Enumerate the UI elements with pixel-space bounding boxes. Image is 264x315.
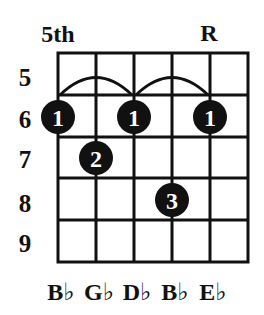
finger-number: 1 — [128, 105, 140, 131]
string-label: G♭ — [84, 279, 114, 305]
finger-number: 1 — [204, 105, 216, 131]
fret-number: 9 — [19, 230, 32, 257]
string-label: B♭ — [161, 279, 188, 305]
fret-number: 6 — [19, 106, 32, 133]
finger-number: 1 — [52, 105, 64, 131]
finger-dot: 1 — [117, 100, 151, 134]
string-label: E♭ — [199, 279, 226, 305]
finger-dot: 3 — [155, 183, 189, 217]
chord-diagram: 5th R 5 6 7 8 9 1 1 1 — [0, 0, 264, 315]
finger-number: 3 — [166, 188, 178, 214]
fret-number: 8 — [19, 190, 32, 217]
position-label: 5th — [41, 21, 74, 47]
finger-dot: 2 — [79, 141, 113, 175]
finger-number: 2 — [90, 146, 102, 172]
finger-dot: 1 — [193, 100, 227, 134]
string-label: B♭ — [47, 279, 74, 305]
string-label: D♭ — [123, 279, 152, 305]
root-marker: R — [200, 20, 218, 46]
fret-number: 5 — [19, 64, 32, 91]
string-labels: B♭ G♭ D♭ B♭ E♭ — [47, 279, 226, 305]
fret-numbers: 5 6 7 8 9 — [19, 64, 32, 257]
finger-dot: 1 — [41, 100, 75, 134]
fret-number: 7 — [19, 146, 32, 173]
